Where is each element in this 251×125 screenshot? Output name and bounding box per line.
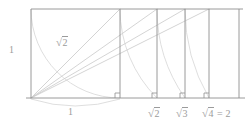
arc-unit-base <box>31 99 120 106</box>
label-sqrt3-baseline: √3 <box>176 108 188 119</box>
label-sqrt4-baseline: √4 = 2 <box>202 108 231 119</box>
ray-sqrt3 <box>31 9 157 98</box>
label-unit-left-text: 1 <box>9 44 14 55</box>
label-sqrt2-diagonal: √2 <box>56 37 68 48</box>
label-sqrt3-baseline-value: 3 <box>182 107 188 119</box>
right-angle-markers <box>115 93 209 98</box>
label-unit-bottom-text: 1 <box>68 106 73 117</box>
label-unit-bottom: 1 <box>68 107 73 117</box>
ray-sqrt4 <box>31 9 185 98</box>
label-sqrt2-diagonal-value: 2 <box>62 36 68 48</box>
ray-sqrt2 <box>31 9 120 98</box>
structure-lines <box>26 9 245 98</box>
label-unit-left: 1 <box>9 45 14 55</box>
arc-sqrt4 <box>185 9 209 98</box>
square-root-construction-figure: 1 1 √2 √2 √3 √4 = 2 <box>0 0 251 125</box>
label-sqrt2-baseline-value: 2 <box>154 107 160 119</box>
label-sqrt2-baseline: √2 <box>148 108 160 119</box>
label-sqrt4-baseline-equals: = 2 <box>214 108 230 119</box>
right-angle-marker-unit <box>115 93 120 98</box>
